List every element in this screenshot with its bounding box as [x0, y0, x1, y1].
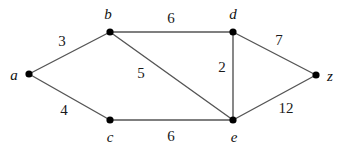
edge-layer [29, 32, 316, 120]
edge-weight-a-b: 3 [58, 34, 66, 49]
graph-vertex-d [229, 28, 236, 35]
graph-vertex-a [25, 70, 32, 77]
weighted-graph-figure: abcdez 346562712 [0, 0, 343, 148]
edge-weight-c-e: 6 [167, 129, 175, 144]
edge-weight-d-e: 2 [218, 60, 226, 75]
edge-weight-e-z: 12 [279, 101, 294, 116]
edge-weight-b-d: 6 [167, 11, 175, 26]
edge-weight-a-c: 4 [60, 103, 68, 118]
vertex-label-e: e [231, 130, 238, 145]
graph-vertex-z [312, 71, 319, 78]
graph-edge-e-z [233, 75, 316, 120]
vertex-label-b: b [104, 7, 112, 22]
vertex-label-d: d [229, 7, 237, 22]
edge-weight-d-z: 7 [275, 33, 283, 48]
graph-edge-b-e [110, 32, 233, 120]
edge-weight-b-e: 5 [137, 66, 145, 81]
graph-vertex-e [229, 116, 236, 123]
vertex-label-a: a [10, 68, 18, 83]
graph-vertex-c [106, 116, 113, 123]
vertex-label-z: z [327, 69, 333, 84]
graph-vertex-b [106, 28, 113, 35]
graph-edge-a-b [29, 32, 110, 74]
vertex-label-c: c [107, 130, 114, 145]
graph-edge-a-c [29, 74, 110, 120]
